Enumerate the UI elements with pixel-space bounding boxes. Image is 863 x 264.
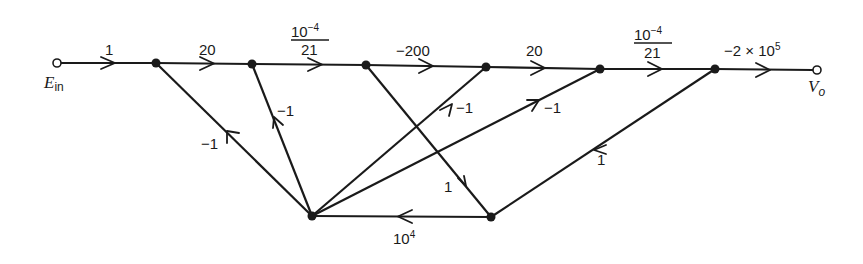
signal-flow-graph: 1 20 10−4 21 −200 20 10−4 21 −2 × 105: [0, 0, 863, 264]
edge-n6-b2: [491, 69, 715, 217]
edge-n3-n4: [366, 65, 486, 67]
edge-n2-n3: [252, 64, 366, 65]
gain-b1-n2: −1: [277, 102, 294, 119]
edge-b1-n1: [156, 63, 312, 216]
edge-n6-vo: [715, 69, 813, 70]
edge-b1-n5: [312, 69, 600, 216]
node-b1: [308, 212, 317, 221]
svg-text:10−4: 10−4: [634, 25, 663, 43]
gain-b1-n1: −1: [201, 135, 218, 152]
input-node: [53, 59, 61, 67]
nodes: [53, 59, 821, 222]
input-label: Ein: [43, 73, 64, 94]
gain-n6-b2: 1: [597, 151, 605, 168]
gain-n3-b2: 1: [444, 178, 452, 195]
node-n6: [711, 65, 720, 74]
gain-b1-n4: −1: [456, 99, 473, 116]
edge-n3-b2: [366, 65, 491, 217]
edge-b1-n2: [252, 64, 312, 216]
svg-text:21: 21: [644, 44, 661, 61]
gain-b1-n5: −1: [544, 99, 561, 116]
node-n2: [248, 60, 257, 69]
node-n3: [362, 61, 371, 70]
feedback-edges: −1 −1 −1 −1: [156, 63, 600, 216]
gain-n2-n3: 10−4 21: [291, 22, 329, 58]
node-n5: [596, 65, 605, 74]
gain-n1-n2: 20: [199, 41, 216, 58]
node-n4: [482, 63, 491, 72]
gain-ein-n1: 1: [105, 41, 113, 58]
gain-b2-b1: 104: [393, 229, 416, 247]
gain-n5-n6: 10−4 21: [634, 25, 672, 61]
edge-n1-n2: [156, 63, 252, 64]
forward-path: 1 20 10−4 21 −200 20 10−4 21 −2 × 105: [61, 22, 813, 77]
output-label: Vo: [808, 77, 825, 99]
svg-text:10−4: 10−4: [291, 22, 320, 40]
node-b2: [487, 213, 496, 222]
edge-b2-b1: [312, 216, 491, 217]
gain-n6-vo: −2 × 105: [724, 41, 781, 59]
gain-n4-n5: 20: [526, 42, 543, 59]
output-node: [813, 66, 821, 74]
lower-edges: 1 104 1: [312, 65, 715, 247]
svg-text:21: 21: [301, 41, 318, 58]
gain-n3-n4: −200: [396, 42, 430, 59]
node-n1: [152, 59, 161, 68]
